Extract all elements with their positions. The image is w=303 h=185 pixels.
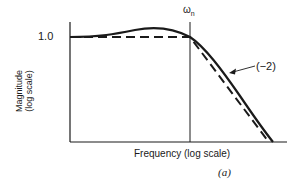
y-axis-label: Magnitude (log scale) — [8, 60, 40, 122]
exact-response-curve — [70, 28, 273, 142]
figure-caption: (a) — [218, 166, 231, 178]
x-axis-label: Frequency (log scale) — [134, 148, 230, 159]
arrowhead-icon — [229, 69, 236, 75]
asymptote-dashed-line — [70, 37, 268, 141]
omega-symbol: ω — [183, 4, 191, 15]
omega-subscript: n — [191, 10, 195, 17]
corner-frequency-label: ωn — [183, 4, 195, 17]
slope-annotation: (−2) — [256, 60, 276, 72]
y-axis-label-line2: (log scale) — [24, 70, 34, 112]
y-axis-label-line1: Magnitude — [14, 70, 24, 112]
slope-annotation-leader — [233, 66, 255, 72]
y-tick-label: 1.0 — [38, 30, 53, 42]
